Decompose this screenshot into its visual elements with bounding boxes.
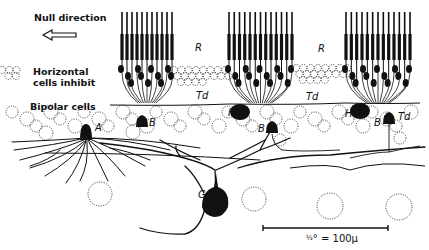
label-Td-2: Td bbox=[306, 91, 318, 102]
label-bipolar-cells: Bipolar cells bbox=[30, 101, 96, 112]
null-direction-arrow-icon bbox=[43, 30, 76, 40]
label-Td-1: Td bbox=[196, 90, 208, 101]
plexiform-line bbox=[110, 103, 420, 105]
inner-plexiform-lines bbox=[290, 164, 425, 170]
scale-bar-label: ½° = 100μ bbox=[306, 233, 358, 244]
amacrine-dendrites bbox=[12, 138, 260, 183]
scale-text: ° = 100μ bbox=[313, 233, 358, 244]
label-ganglion-G: G bbox=[198, 189, 206, 200]
label-horizontal-H1: H bbox=[228, 107, 236, 118]
label-horizontal-cells-1: Horizontal bbox=[33, 66, 88, 77]
retina-diagram bbox=[0, 0, 429, 250]
label-amacrine-A: A bbox=[95, 122, 102, 133]
label-bipolar-B2: B bbox=[258, 123, 265, 134]
scale-fraction: ½ bbox=[306, 234, 313, 242]
label-bipolar-B3: B bbox=[374, 117, 381, 128]
label-horizontal-H2: H bbox=[345, 108, 353, 119]
photoreceptor-rods bbox=[118, 12, 412, 103]
label-receptor-R1: R bbox=[195, 42, 202, 53]
label-receptor-R2: R bbox=[318, 43, 325, 54]
scale-bar bbox=[263, 225, 388, 231]
ganglion-dendrites bbox=[100, 132, 425, 234]
label-bipolar-B1: B bbox=[149, 117, 156, 128]
label-horizontal-cells-2: cells inhibit bbox=[33, 77, 95, 88]
label-null-direction: Null direction bbox=[34, 12, 106, 23]
label-Td-3: Td bbox=[398, 111, 410, 122]
